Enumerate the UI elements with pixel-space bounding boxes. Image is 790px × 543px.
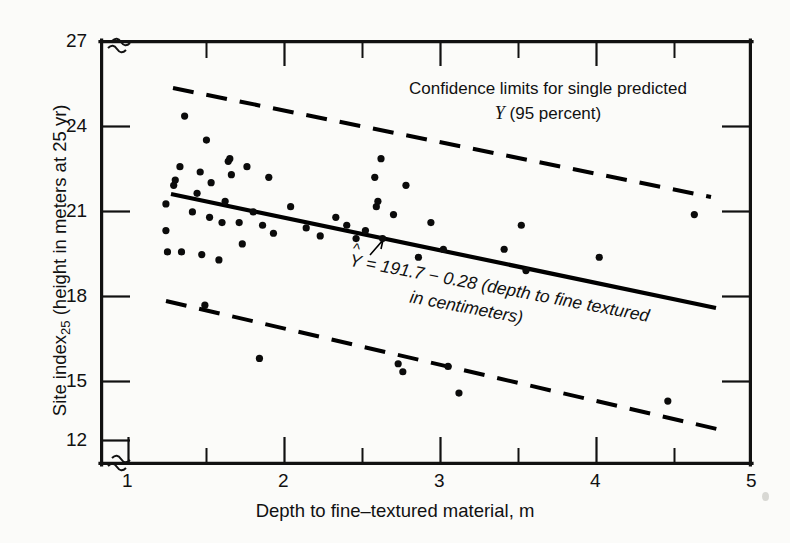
figure-container: 27 24 21 18 15 12 1 2 3 4 5 Site index25… [0,0,790,543]
data-point [201,302,208,309]
y-axis-label-subscript: 25 [58,320,73,334]
data-point [440,246,447,253]
data-point [303,224,310,231]
data-point [162,200,169,207]
data-point [162,227,169,234]
data-point [172,176,179,183]
right-axis-ticks [722,127,750,382]
data-point [218,219,225,226]
x-tick-label-5: 5 [746,470,757,492]
data-point [259,222,266,229]
x-tick-label-1: 1 [122,470,133,492]
data-point [395,360,402,367]
confidence-limits-line1: Confidence limits for single predicted [380,77,716,101]
data-point [197,168,204,175]
top-axis-ticks [207,42,675,66]
x-axis-ticks [129,437,675,463]
data-point [332,214,339,221]
data-point [390,211,397,218]
x-tick-label-4: 4 [590,470,601,492]
data-point [178,248,185,255]
confidence-limits-line2: Y (95 percent) [380,101,716,127]
data-point [164,248,171,255]
data-point [176,163,183,170]
data-point [203,136,210,143]
data-point [444,363,451,370]
data-point [371,174,378,181]
data-point [228,171,235,178]
data-point [215,256,222,263]
y-tick-label-12: 12 [66,429,87,451]
data-point [399,368,406,375]
data-point [243,163,250,170]
x-tick-label-3: 3 [434,470,445,492]
data-point [181,112,188,119]
data-point [402,182,409,189]
y-axis-ticks [102,42,130,441]
y-axis-label-main: Site index [49,335,70,416]
data-point [501,246,508,253]
data-point [455,389,462,396]
data-point [256,355,263,362]
scatter-points [162,112,698,404]
data-point [287,203,294,210]
data-point [265,174,272,181]
data-point [236,219,243,226]
data-point [522,267,529,274]
data-point [664,397,671,404]
data-point [270,230,277,237]
y-axis-label: Site index25 (height in meters at 25 yr) [49,95,74,425]
data-point [239,240,246,247]
data-point [691,211,698,218]
x-tick-label-2: 2 [278,470,289,492]
data-point [374,198,381,205]
data-point [208,179,215,186]
confidence-limits-annotation: Confidence limits for single predicted Y… [380,77,716,127]
data-point [189,208,196,215]
x-axis-label: Depth to fine–textured material, m [0,500,790,522]
data-point [317,232,324,239]
data-point [377,155,384,162]
data-point [379,235,386,242]
y-axis-label-rest: (height in meters at 25 yr) [49,105,70,321]
data-point [596,254,603,261]
confidence-percent-text: (95 percent) [505,104,601,123]
data-point [198,251,205,258]
data-point [206,214,213,221]
data-point [362,227,369,234]
data-point [343,222,350,229]
data-point [250,208,257,215]
data-point [518,222,525,229]
data-point [226,155,233,162]
predicted-y-symbol: Y [495,103,505,123]
axis-break-marks [108,39,130,471]
data-point [427,219,434,226]
data-point [222,198,229,205]
y-tick-label-27: 27 [66,30,87,52]
data-point [193,190,200,197]
